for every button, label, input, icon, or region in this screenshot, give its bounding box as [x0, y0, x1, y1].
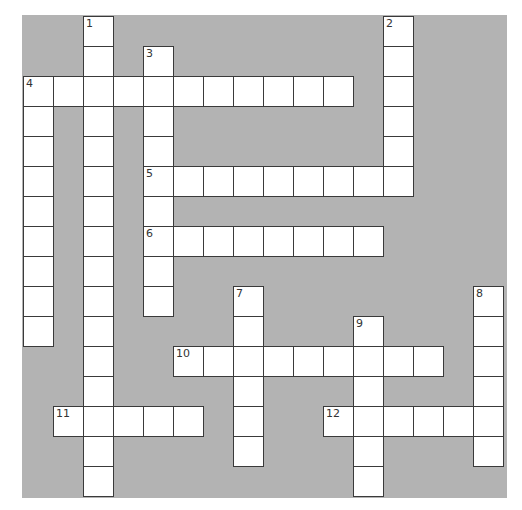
grid-cell[interactable]: 6: [143, 226, 174, 257]
grid-cell[interactable]: [293, 76, 324, 107]
letter-input[interactable]: [84, 377, 113, 406]
grid-cell[interactable]: [143, 406, 174, 437]
grid-cell[interactable]: 11: [53, 406, 84, 437]
grid-cell[interactable]: [83, 226, 114, 257]
grid-cell[interactable]: [83, 136, 114, 167]
grid-cell[interactable]: [383, 166, 414, 197]
grid-cell[interactable]: [383, 106, 414, 137]
grid-cell[interactable]: [443, 406, 474, 437]
grid-cell[interactable]: [203, 76, 234, 107]
grid-cell[interactable]: [473, 436, 504, 467]
letter-input[interactable]: [414, 407, 443, 436]
letter-input[interactable]: [24, 77, 53, 106]
grid-cell[interactable]: [83, 46, 114, 77]
letter-input[interactable]: [24, 137, 53, 166]
grid-cell[interactable]: [263, 76, 294, 107]
grid-cell[interactable]: [23, 106, 54, 137]
letter-input[interactable]: [474, 407, 503, 436]
grid-cell[interactable]: [83, 316, 114, 347]
grid-cell[interactable]: [173, 406, 204, 437]
grid-cell[interactable]: 9: [353, 316, 384, 347]
letter-input[interactable]: [444, 407, 473, 436]
grid-cell[interactable]: [473, 346, 504, 377]
grid-cell[interactable]: [113, 406, 144, 437]
letter-input[interactable]: [384, 407, 413, 436]
letter-input[interactable]: [144, 257, 173, 286]
grid-cell[interactable]: 12: [323, 406, 354, 437]
letter-input[interactable]: [384, 77, 413, 106]
letter-input[interactable]: [384, 347, 413, 376]
letter-input[interactable]: [264, 347, 293, 376]
letter-input[interactable]: [84, 197, 113, 226]
letter-input[interactable]: [204, 77, 233, 106]
letter-input[interactable]: [354, 347, 383, 376]
letter-input[interactable]: [144, 77, 173, 106]
grid-cell[interactable]: [203, 226, 234, 257]
letter-input[interactable]: [24, 227, 53, 256]
letter-input[interactable]: [264, 77, 293, 106]
letter-input[interactable]: [144, 407, 173, 436]
grid-cell[interactable]: [383, 76, 414, 107]
letter-input[interactable]: [84, 467, 113, 496]
letter-input[interactable]: [24, 167, 53, 196]
letter-input[interactable]: [354, 467, 383, 496]
letter-input[interactable]: [324, 407, 353, 436]
grid-cell[interactable]: [23, 226, 54, 257]
letter-input[interactable]: [234, 287, 263, 316]
letter-input[interactable]: [384, 137, 413, 166]
grid-cell[interactable]: [143, 286, 174, 317]
grid-cell[interactable]: [293, 346, 324, 377]
grid-cell[interactable]: [383, 46, 414, 77]
grid-cell[interactable]: [83, 376, 114, 407]
letter-input[interactable]: [234, 437, 263, 466]
letter-input[interactable]: [354, 317, 383, 346]
grid-cell[interactable]: 1: [83, 16, 114, 47]
letter-input[interactable]: [84, 317, 113, 346]
letter-input[interactable]: [264, 167, 293, 196]
grid-cell[interactable]: [143, 196, 174, 227]
letter-input[interactable]: [114, 77, 143, 106]
letter-input[interactable]: [84, 107, 113, 136]
letter-input[interactable]: [234, 167, 263, 196]
letter-input[interactable]: [54, 77, 83, 106]
letter-input[interactable]: [144, 47, 173, 76]
grid-cell[interactable]: [353, 376, 384, 407]
letter-input[interactable]: [174, 167, 203, 196]
letter-input[interactable]: [384, 17, 413, 46]
grid-cell[interactable]: [23, 286, 54, 317]
letter-input[interactable]: [84, 77, 113, 106]
letter-input[interactable]: [474, 437, 503, 466]
grid-cell[interactable]: [233, 316, 264, 347]
grid-cell[interactable]: [323, 166, 354, 197]
letter-input[interactable]: [354, 377, 383, 406]
grid-cell[interactable]: [143, 256, 174, 287]
letter-input[interactable]: [294, 77, 323, 106]
letter-input[interactable]: [24, 257, 53, 286]
grid-cell[interactable]: [23, 166, 54, 197]
grid-cell[interactable]: [113, 76, 144, 107]
grid-cell[interactable]: [203, 346, 234, 377]
grid-cell[interactable]: [263, 166, 294, 197]
letter-input[interactable]: [84, 137, 113, 166]
letter-input[interactable]: [354, 227, 383, 256]
letter-input[interactable]: [204, 347, 233, 376]
grid-cell[interactable]: [353, 466, 384, 497]
grid-cell[interactable]: [473, 376, 504, 407]
grid-cell[interactable]: [83, 76, 114, 107]
grid-cell[interactable]: [53, 76, 84, 107]
grid-cell[interactable]: 7: [233, 286, 264, 317]
letter-input[interactable]: [324, 77, 353, 106]
grid-cell[interactable]: [323, 346, 354, 377]
grid-cell[interactable]: [83, 346, 114, 377]
grid-cell[interactable]: [23, 316, 54, 347]
letter-input[interactable]: [294, 227, 323, 256]
letter-input[interactable]: [174, 407, 203, 436]
grid-cell[interactable]: [233, 226, 264, 257]
grid-cell[interactable]: [353, 346, 384, 377]
grid-cell[interactable]: [413, 346, 444, 377]
letter-input[interactable]: [474, 347, 503, 376]
grid-cell[interactable]: [323, 226, 354, 257]
grid-cell[interactable]: [143, 76, 174, 107]
letter-input[interactable]: [24, 287, 53, 316]
grid-cell[interactable]: [383, 136, 414, 167]
